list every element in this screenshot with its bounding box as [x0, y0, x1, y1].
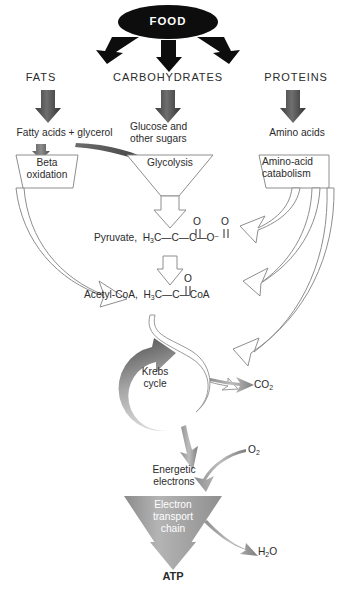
food-distribution-arrows: [96, 37, 240, 72]
o2-subscript: 2: [256, 449, 260, 456]
acetylcoa-bond-1: —: [162, 289, 172, 300]
proteins-label: PROTEINS: [257, 71, 335, 84]
h2o-subscript: 2: [265, 551, 269, 558]
pyruvate-methyl: H3C: [140, 232, 161, 243]
beta-oxidation-label-line2: oxidation: [14, 169, 80, 181]
etc-label-line2: transport: [140, 511, 206, 523]
pyruvate-formula: Pyruvate, H3C—C—C—O–: [94, 232, 218, 244]
co2-subscript: 2: [269, 384, 273, 391]
krebs-label-line1: Krebs: [127, 366, 183, 378]
carbohydrates-label: CARBOHYDRATES: [103, 71, 233, 84]
co2-label: CO2: [254, 379, 294, 392]
pyruvate-charge: –: [215, 232, 219, 239]
pyruvate-oxygen: O: [207, 232, 215, 243]
beta-oxidation-label-line1: Beta: [14, 157, 80, 169]
fatty-acids-label: Fatty acids + glycerol: [2, 127, 127, 139]
glycolysis-to-pyruvate-arrow: [154, 196, 186, 228]
pyruvate-carbon-2: C: [171, 232, 178, 243]
pyruvate-bond-2: —: [179, 232, 189, 243]
etc-label-line3: chain: [140, 523, 206, 535]
pyruvate-carbonyl-o-2: O: [218, 216, 232, 228]
atp-label: ATP: [145, 570, 201, 583]
amino-acid-catabolism-label-line1: Amino-acid: [262, 156, 332, 168]
pyruvate-carbonyl-o-1: O: [190, 216, 204, 228]
acetyl-coa-formula: Acetyl-CoA, H3C—C—CoA: [84, 289, 210, 301]
acetylcoa-coa: CoA: [190, 289, 210, 300]
acetylcoa-bond-2: —: [180, 289, 190, 300]
etc-label-line1: Electron: [140, 499, 206, 511]
glycolysis-label: Glycolysis: [140, 157, 200, 169]
acetylcoa-name: Acetyl-CoA,: [84, 289, 138, 300]
acetylcoa-methyl: H3C: [141, 289, 162, 300]
pyruvate-methyl-sub: 3: [150, 237, 154, 244]
acetylcoa-carbon-2: C: [172, 289, 179, 300]
diagram-canvas: FOOD FATS CARBOHYDRATES PROTEINS Fatty a…: [0, 0, 337, 589]
acetylcoa-methyl-sub: 3: [151, 294, 155, 301]
acetylcoa-carbonyl-o: O: [181, 273, 195, 285]
amino-acids-label: Amino acids: [258, 127, 336, 139]
krebs-label-line2: cycle: [127, 378, 183, 390]
pyruvate-bond-3: —: [196, 232, 206, 243]
glucose-label-line1: Glucose and: [130, 121, 212, 133]
amino-acid-catabolism-label-line2: catabolism: [262, 168, 332, 180]
fats-label: FATS: [8, 71, 74, 84]
o2-label: O2: [248, 444, 284, 457]
energetic-electrons-label-line2: electrons: [136, 476, 212, 488]
pyruvate-bond-1: —: [161, 232, 171, 243]
krebs-to-co2-arrow: [210, 377, 254, 393]
pyruvate-name: Pyruvate,: [94, 232, 137, 243]
etc-to-h2o-arrow: [204, 520, 258, 556]
macro-to-monomer-arrows: [35, 90, 306, 123]
aminoacid-to-pyruvate-arrow: [240, 188, 300, 243]
h2o-label: H2O: [258, 546, 298, 559]
pyruvate-to-acetylcoa-arrow: [157, 256, 183, 285]
glucose-label-line2: other sugars: [130, 133, 212, 145]
food-label: FOOD: [118, 15, 218, 28]
energetic-electrons-label-line1: Energetic: [136, 464, 212, 476]
